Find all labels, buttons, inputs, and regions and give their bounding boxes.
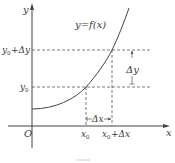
x0-label: x 0 [81, 129, 90, 140]
svg-text:+Δy: +Δy [11, 45, 31, 55]
delta-x-arrowhead-icon [108, 118, 111, 121]
x-axis-label: x [166, 127, 172, 138]
y-axis-arrow-icon [30, 3, 34, 10]
y0-label: y 0 [19, 82, 29, 93]
svg-text:0: 0 [25, 87, 29, 93]
x0-plus-dx-label: x 0 +Δx [102, 129, 130, 140]
function-increment-diagram: y x O y=f(x) y 0 y 0 +Δy x 0 x 0 +Δx Δx … [0, 0, 175, 163]
origin-label: O [24, 128, 32, 139]
y0-plus-dy-label: y 0 +Δy [1, 45, 31, 56]
y-axis-label: y [22, 4, 29, 15]
delta-x-label: Δx [91, 114, 104, 124]
svg-text:+Δx: +Δx [111, 129, 130, 139]
delta-y-label: Δy [125, 64, 139, 75]
svg-text:0: 0 [86, 134, 90, 140]
delta-y-arrowhead-icon [131, 51, 134, 54]
function-label: y=f(x) [74, 19, 106, 30]
